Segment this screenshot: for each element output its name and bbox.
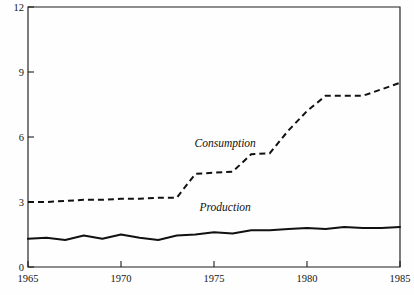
y-tick-label-3: 3 [19, 197, 24, 208]
series-line-production [28, 227, 400, 240]
x-tick-label-1975: 1975 [204, 273, 225, 284]
x-axis-ticks [28, 261, 400, 267]
series-label-production: Production [199, 201, 252, 213]
chart-page: 12 9 6 3 0 1965 1970 1975 1980 1985 Cons… [0, 0, 414, 295]
line-chart: 12 9 6 3 0 1965 1970 1975 1980 1985 Cons… [0, 0, 414, 295]
y-tick-label-9: 9 [19, 67, 24, 78]
x-axis-labels: 1965 1970 1975 1980 1985 [18, 273, 411, 284]
x-tick-label-1965: 1965 [18, 273, 39, 284]
series-label-consumption: Consumption [195, 137, 257, 150]
x-tick-label-1985: 1985 [390, 273, 411, 284]
y-tick-label-6: 6 [19, 132, 24, 143]
y-axis-labels: 12 9 6 3 0 [14, 2, 25, 273]
x-tick-label-1970: 1970 [111, 273, 132, 284]
y-tick-label-12: 12 [14, 2, 25, 13]
y-tick-label-0: 0 [19, 262, 24, 273]
x-tick-label-1980: 1980 [297, 273, 318, 284]
y-axis-ticks [28, 7, 34, 267]
